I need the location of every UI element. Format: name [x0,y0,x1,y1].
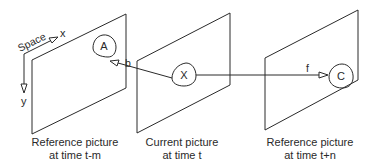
current-picture-caption: Current picture at time t [132,136,232,162]
y-axis-arrow-icon [21,84,27,93]
reference-picture-past-caption-line1: Reference picture [20,136,130,149]
block-c-label: C [337,70,345,82]
reference-picture-future-caption-line2: at time t+n [255,149,365,162]
forward-vector-label: f [306,62,309,74]
x-axis-label: x [60,27,66,39]
backward-vector-label: b [125,57,131,69]
block-x-label: X [180,69,188,81]
reference-picture-future-caption-line1: Reference picture [255,136,365,149]
reference-picture-past-caption: Reference picture at time t-m [20,136,130,162]
current-picture-caption-line2: at time t [132,149,232,162]
reference-picture-past-plane [32,14,126,134]
y-axis-label: y [21,95,27,107]
reference-picture-past-caption-line2: at time t-m [20,149,130,162]
forward-vector-arrow-icon [319,72,328,78]
backward-vector-arrow-icon [110,60,119,66]
x-axis-arrow-icon [49,37,58,43]
current-picture-caption-line1: Current picture [132,136,232,149]
reference-picture-future-caption: Reference picture at time t+n [255,136,365,162]
block-a-label: A [100,40,108,52]
